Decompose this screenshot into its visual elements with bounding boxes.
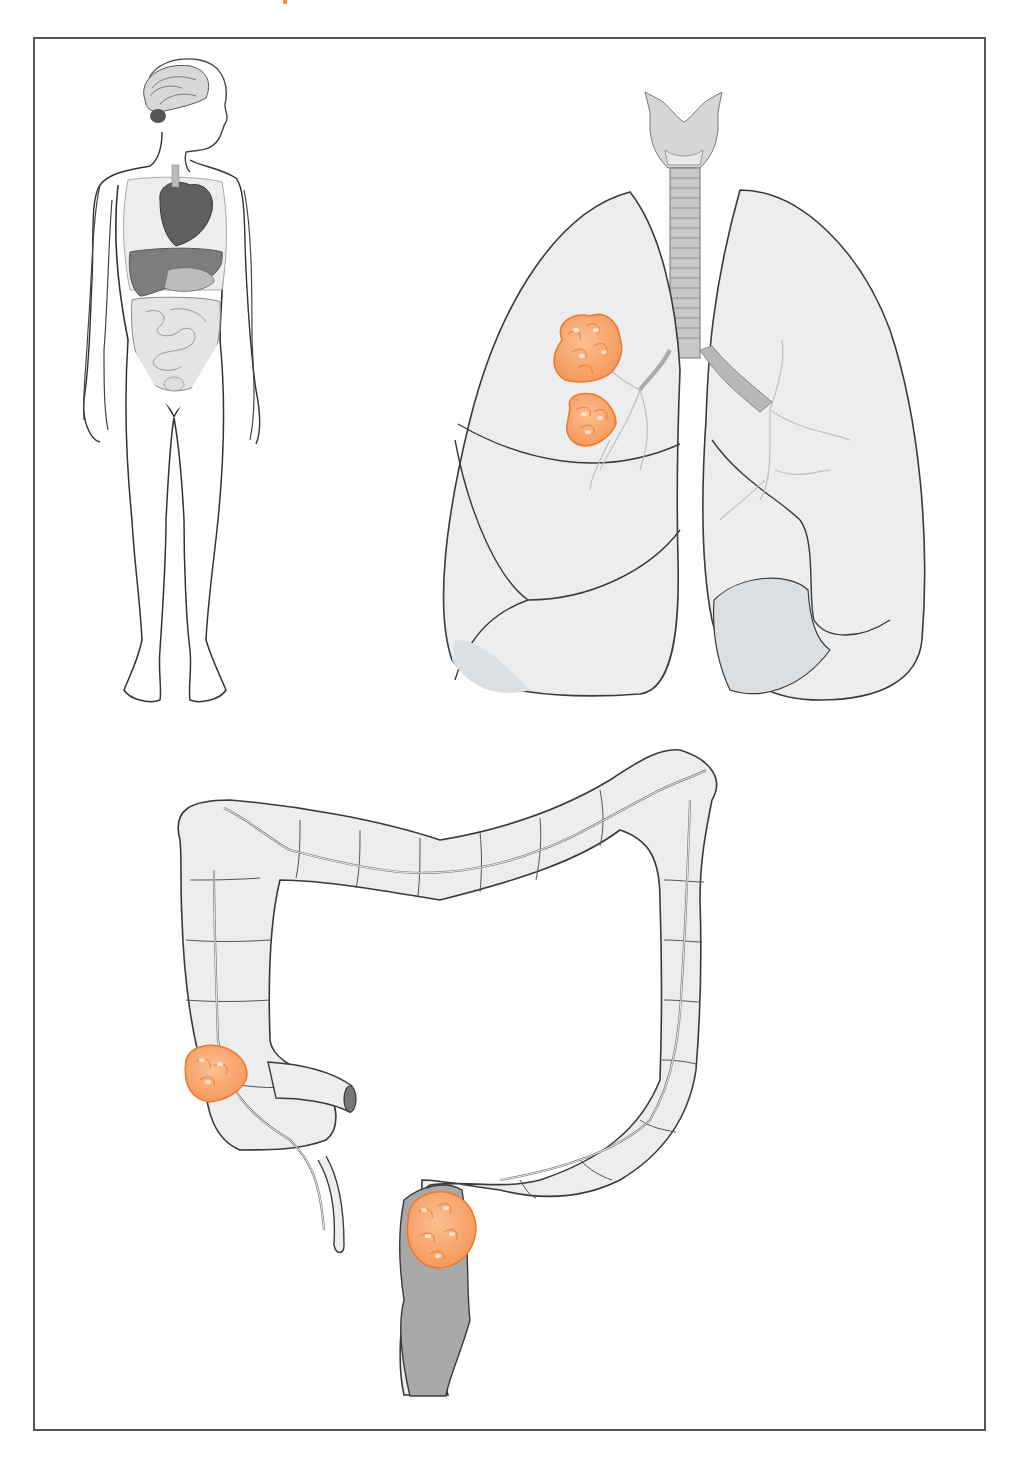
- anatomy-illustration: [0, 0, 1011, 1458]
- colon-figure: [178, 750, 716, 1396]
- body-figure: [83, 59, 259, 701]
- right-lung: [444, 192, 680, 696]
- lungs-figure: [444, 92, 925, 700]
- colon-tumor-sigmoid: [407, 1192, 476, 1268]
